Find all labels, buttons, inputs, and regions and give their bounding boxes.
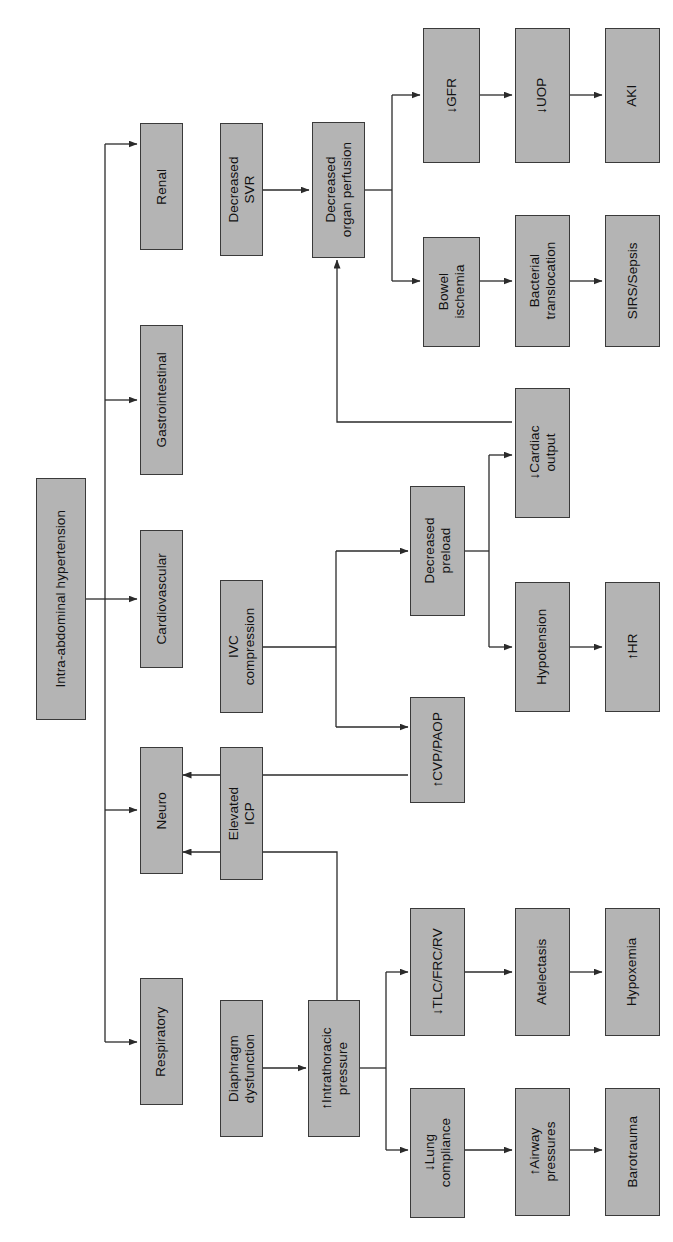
node-label: ↓TLC/FRC/RV bbox=[430, 928, 446, 1015]
node-airway-pressures[interactable]: ↑Airway pressures bbox=[515, 1088, 570, 1216]
node-label: SIRS/Sepsis bbox=[625, 243, 641, 320]
node-label: ↓GFR bbox=[444, 78, 460, 114]
node-label: Diaphragm dysfunction bbox=[226, 1034, 257, 1103]
node-label: ↓Lung compliance bbox=[422, 1118, 453, 1187]
node-label: Intra-abdominal hypertension bbox=[53, 510, 69, 688]
node-label: AKI bbox=[625, 84, 641, 106]
node-sirs-sepsis[interactable]: SIRS/Sepsis bbox=[605, 215, 660, 347]
node-bowel-ischemia[interactable]: Bowel ischemia bbox=[423, 237, 480, 347]
node-label: ↓UOP bbox=[535, 77, 551, 113]
node-neuro[interactable]: Neuro bbox=[140, 747, 183, 874]
node-atelectasis[interactable]: Atelectasis bbox=[515, 908, 570, 1036]
node-barotrauma[interactable]: Barotrauma bbox=[605, 1088, 660, 1216]
node-intrathoracic-pressure[interactable]: ↑Intrathoracic pressure bbox=[308, 1000, 360, 1137]
node-label: ↑Intrathoracic pressure bbox=[318, 1027, 349, 1109]
node-diaphragm-dysfunction[interactable]: Diaphragm dysfunction bbox=[220, 1000, 263, 1137]
node-label: Hypoxemia bbox=[625, 938, 641, 1006]
node-gfr[interactable]: ↓GFR bbox=[423, 28, 480, 163]
node-renal[interactable]: Renal bbox=[140, 123, 183, 250]
node-ivc-compression[interactable]: IVC compression bbox=[220, 580, 263, 713]
node-decreased-preload[interactable]: Decreased preload bbox=[410, 486, 465, 616]
node-bacterial-translocation[interactable]: Bacterial translocation bbox=[515, 215, 570, 347]
node-label: Cardiovascular bbox=[154, 553, 170, 644]
node-decreased-organ-perfusion[interactable]: Decreased organ perfusion bbox=[312, 122, 365, 258]
node-label: Elevated ICP bbox=[226, 787, 257, 840]
node-hypotension[interactable]: Hypotension bbox=[515, 582, 570, 712]
node-hypoxemia[interactable]: Hypoxemia bbox=[605, 908, 660, 1036]
node-label: Renal bbox=[154, 169, 170, 205]
node-label: Decreased preload bbox=[422, 518, 453, 584]
node-label: ↓Cardiac output bbox=[527, 426, 558, 480]
node-label: ↑HR bbox=[625, 634, 641, 661]
node-decreased-svr[interactable]: Decreased SVR bbox=[220, 123, 263, 256]
node-label: Atelectasis bbox=[535, 939, 551, 1005]
node-label: IVC compression bbox=[226, 608, 257, 686]
flowchart-canvas: Intra-abdominal hypertension Renal Gastr… bbox=[0, 0, 673, 1242]
node-aki[interactable]: AKI bbox=[605, 28, 660, 163]
node-elevated-icp[interactable]: Elevated ICP bbox=[220, 747, 263, 880]
node-label: Barotrauma bbox=[625, 1116, 641, 1188]
node-label: Respiratory bbox=[154, 1006, 170, 1076]
node-uop[interactable]: ↓UOP bbox=[515, 28, 570, 163]
node-label: Decreased organ perfusion bbox=[323, 142, 354, 237]
node-respiratory[interactable]: Respiratory bbox=[140, 978, 183, 1105]
node-lung-compliance[interactable]: ↓Lung compliance bbox=[410, 1088, 465, 1218]
node-label: ↑Airway pressures bbox=[527, 1122, 558, 1182]
node-label: Bowel ischemia bbox=[436, 265, 467, 319]
node-label: Decreased SVR bbox=[226, 156, 257, 222]
node-cardiovascular[interactable]: Cardiovascular bbox=[140, 530, 183, 668]
node-cardiac-output[interactable]: ↓Cardiac output bbox=[515, 388, 570, 518]
node-label: Neuro bbox=[154, 792, 170, 829]
node-label: Hypotension bbox=[535, 609, 551, 685]
node-label: Bacterial translocation bbox=[527, 242, 558, 320]
node-label: ↑CVP/PAOP bbox=[430, 712, 446, 788]
node-gastrointestinal[interactable]: Gastrointestinal bbox=[140, 325, 183, 475]
node-intra-abdominal-hypertension[interactable]: Intra-abdominal hypertension bbox=[36, 478, 86, 720]
node-label: Gastrointestinal bbox=[154, 352, 170, 447]
node-cvp-paop[interactable]: ↑CVP/PAOP bbox=[410, 697, 465, 803]
node-tlc-frc-rv[interactable]: ↓TLC/FRC/RV bbox=[410, 908, 465, 1036]
node-hr[interactable]: ↑HR bbox=[605, 582, 660, 712]
